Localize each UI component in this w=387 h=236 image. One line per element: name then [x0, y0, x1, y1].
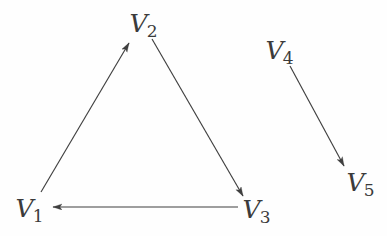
vertex-subscript: 5 [364, 180, 375, 200]
vertex-label-v4: V4 [265, 38, 294, 63]
vertex-letter: V [346, 168, 364, 197]
vertex-letter: V [129, 9, 147, 38]
vertex-subscript: 2 [147, 21, 158, 41]
vertex-label-v5: V5 [346, 170, 375, 195]
edge-v2-to-v3 [152, 39, 243, 196]
directed-graph-figure: V1 V2 V3 V4 V5 [0, 0, 387, 236]
vertex-subscript: 4 [283, 48, 294, 68]
edge-v4-to-v5 [290, 66, 344, 166]
vertex-letter: V [265, 36, 283, 65]
vertex-letter: V [242, 195, 260, 224]
graph-canvas [0, 0, 387, 236]
vertex-subscript: 1 [33, 206, 44, 226]
vertex-label-v1: V1 [15, 196, 44, 221]
edge-layer [41, 39, 344, 207]
edge-v1-to-v2 [41, 43, 129, 192]
vertex-subscript: 3 [260, 207, 271, 227]
vertex-letter: V [15, 194, 33, 223]
vertex-label-v3: V3 [242, 197, 271, 222]
vertex-label-v2: V2 [129, 11, 158, 36]
